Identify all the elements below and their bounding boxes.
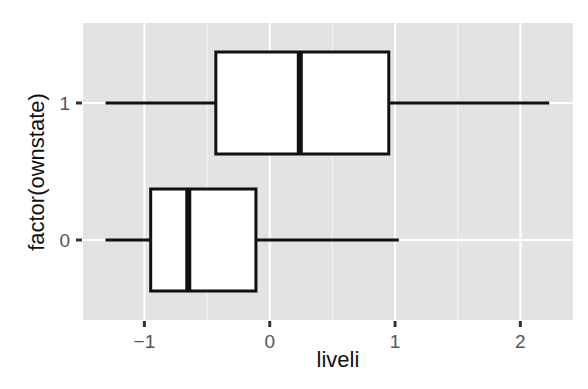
x-tick-label: 2 xyxy=(515,331,526,352)
boxplot-chart: −1012 01 liveli factor(ownstate) xyxy=(0,0,588,389)
x-tick-label: −1 xyxy=(134,331,156,352)
x-tick-label: 0 xyxy=(264,331,275,352)
x-tick-label: 1 xyxy=(390,331,401,352)
y-tick-label: 0 xyxy=(59,230,70,251)
x-axis-title: liveli xyxy=(317,347,360,372)
y-axis: 01 xyxy=(59,93,82,251)
y-axis-title: factor(ownstate) xyxy=(24,93,49,251)
y-tick-label: 1 xyxy=(59,93,70,114)
iqr-box xyxy=(151,189,256,291)
